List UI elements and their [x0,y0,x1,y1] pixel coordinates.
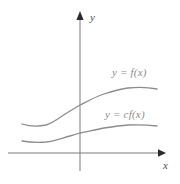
x-axis-label: x [163,160,168,171]
curve-cf [22,125,157,143]
curve-f [22,87,157,126]
y-axis-arrowhead-icon [76,11,83,20]
curve-label-f: y = f(x) [112,67,147,78]
graph-figure: y x y = f(x) y = cf(x) [0,0,180,184]
x-axis-arrowhead-icon [158,149,166,157]
plot-canvas [0,0,180,184]
y-axis-label: y [90,12,95,23]
curve-label-cf: y = cf(x) [105,109,145,120]
